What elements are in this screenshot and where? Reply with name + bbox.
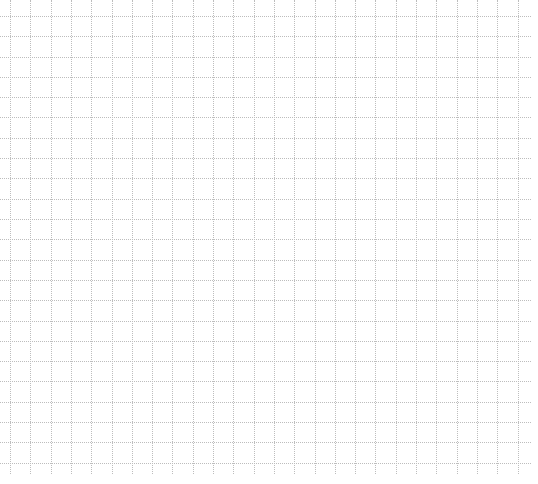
grid-paper	[0, 0, 538, 484]
grid-horizontal-line	[0, 97, 531, 98]
grid-horizontal-line	[0, 178, 531, 179]
grid-horizontal-line	[0, 77, 531, 78]
grid-horizontal-line	[0, 57, 531, 58]
grid-horizontal-line	[0, 199, 531, 200]
grid-horizontal-line	[0, 402, 531, 403]
grid-horizontal-line	[0, 422, 531, 423]
grid-horizontal-line	[0, 138, 531, 139]
grid-horizontal-line	[0, 300, 531, 301]
grid-horizontal-line	[0, 341, 531, 342]
grid-horizontal-line	[0, 36, 531, 37]
grid-horizontal-line	[0, 280, 531, 281]
grid-horizontal-line	[0, 442, 531, 443]
grid-horizontal-line	[0, 463, 531, 464]
grid-horizontal-line	[0, 381, 531, 382]
grid-horizontal-line	[0, 361, 531, 362]
grid-horizontal-line	[0, 16, 531, 17]
grid-horizontal-line	[0, 219, 531, 220]
grid-horizontal-line	[0, 260, 531, 261]
grid-horizontal-line	[0, 158, 531, 159]
grid-horizontal-line	[0, 321, 531, 322]
grid-horizontal-line	[0, 239, 531, 240]
grid-horizontal-line	[0, 117, 531, 118]
